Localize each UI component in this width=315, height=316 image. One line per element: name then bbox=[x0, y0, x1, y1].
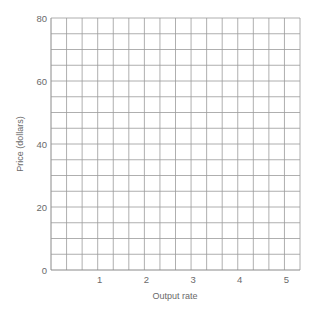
y-tick-label: 20 bbox=[36, 202, 47, 213]
x-tick-label: 1 bbox=[97, 274, 102, 285]
grid-lines bbox=[51, 18, 300, 270]
x-tick-label: 2 bbox=[144, 274, 149, 285]
x-tick-label: 5 bbox=[284, 274, 289, 285]
y-axis-tick-labels: 020406080 bbox=[36, 13, 47, 276]
y-tick-label: 40 bbox=[36, 139, 47, 150]
x-tick-label: 4 bbox=[237, 274, 242, 285]
y-tick-label: 80 bbox=[36, 13, 47, 24]
y-axis-title: Price (dollars) bbox=[15, 116, 25, 172]
chart: 12345 020406080 Output rate Price (dolla… bbox=[0, 0, 315, 316]
y-tick-label: 60 bbox=[36, 76, 47, 87]
y-tick-label: 0 bbox=[42, 265, 47, 276]
x-tick-label: 3 bbox=[190, 274, 195, 285]
x-axis-tick-labels: 12345 bbox=[97, 274, 289, 285]
x-axis-title: Output rate bbox=[152, 291, 197, 301]
